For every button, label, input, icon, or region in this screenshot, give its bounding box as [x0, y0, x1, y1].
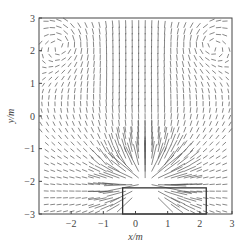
- y-tick-label: 2: [30, 45, 35, 56]
- x-tick-label: 2: [197, 218, 202, 229]
- y-tick-label: −2: [24, 176, 35, 187]
- x-tick-label: −1: [98, 218, 109, 229]
- y-tick-label: −3: [24, 209, 35, 220]
- y-tick-label: 0: [30, 111, 35, 122]
- x-tick-label: 1: [165, 218, 170, 229]
- vector-field-chart: −2−10123 −3−2−10123 x/m y/m: [0, 0, 248, 251]
- x-tick-label: −2: [66, 218, 77, 229]
- y-axis-label: y/m: [5, 109, 16, 124]
- y-tick-label: 3: [30, 13, 35, 24]
- x-tick-label: 0: [133, 218, 138, 229]
- vector-arrows: [39, 18, 232, 213]
- x-axis-label: x/m: [127, 231, 142, 242]
- y-tick-label: 1: [30, 78, 35, 89]
- x-tick-label: 3: [230, 218, 235, 229]
- y-tick-label: −1: [24, 143, 35, 154]
